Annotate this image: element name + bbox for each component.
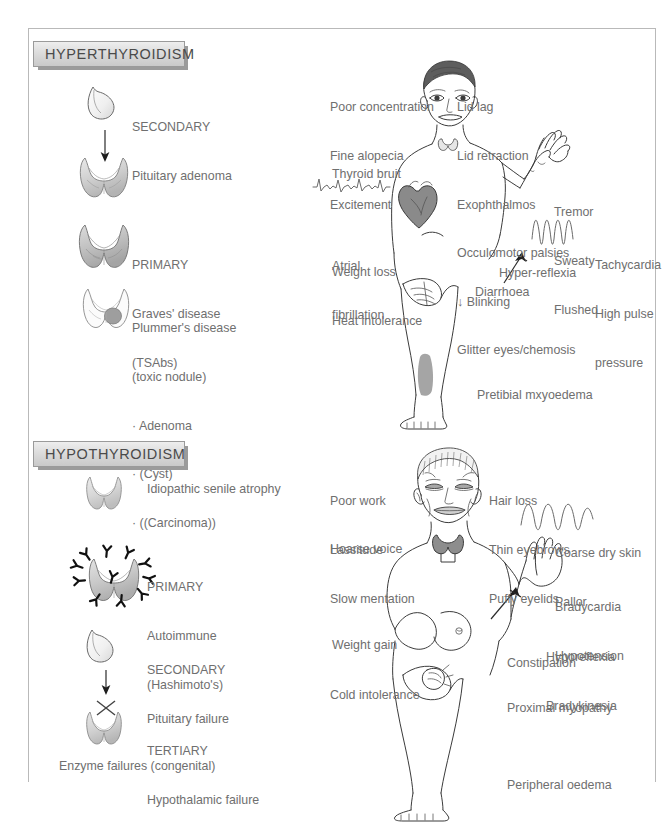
label-peripheral-oedema: Peripheral oedema — [507, 777, 612, 793]
label-line: Flushed — [554, 302, 598, 318]
label-thyroid-bruit: Thyroid bruit — [332, 166, 401, 182]
label-constipation: Constipation — [507, 655, 576, 671]
label-line: Pituitary adenoma — [132, 168, 232, 184]
label-line: · Adenoma — [132, 418, 236, 434]
section-title-hypothyroidism: HYPOTHYROIDISM — [45, 446, 186, 462]
label-pretibial-myxoedema: Pretibial mxyoedema — [477, 387, 593, 403]
label-line: Lid lag — [457, 99, 575, 115]
section-banner-hypothyroidism: HYPOTHYROIDISM — [33, 441, 185, 467]
label-line: Plummer's disease — [132, 320, 236, 336]
label-poor-concentration: Poor concentration Fine alopecia Excitem… — [330, 67, 434, 245]
label-reflex-signs: Hyporeflexia Bradykinesia — [546, 617, 617, 747]
page-frame: HYPERTHYROIDISM — [28, 28, 656, 782]
thyroid-gland-icon — [75, 154, 133, 204]
label-hand-signs: Tremor Sweaty Flushed — [554, 172, 598, 350]
label-line: Bradycardia — [555, 599, 624, 615]
label-line: Hypothalamic failure — [147, 792, 259, 808]
cause-label-plummer: Plummer's disease (toxic nodule) · Adeno… — [132, 288, 236, 563]
label-line: · (Cyst) — [132, 466, 236, 482]
label-diarrhoea: Diarrhoea — [475, 284, 529, 300]
pituitary-gland-icon — [77, 81, 129, 133]
label-line: Poor work — [330, 493, 415, 509]
label-weight-gain: Weight gain — [332, 637, 397, 653]
thyroid-blocked-icon — [81, 709, 127, 753]
label-line: Excitement — [330, 197, 434, 213]
label-cold-intolerance: Cold intolerance — [330, 687, 420, 703]
label-hoarse-voice: Hoarse voice — [330, 541, 402, 557]
label-line: (toxic nodule) — [132, 369, 236, 385]
label-line: SECONDARY — [132, 119, 232, 135]
label-line: PRIMARY — [147, 579, 223, 595]
label-heat-intolerance: Heat intolerance — [332, 313, 422, 329]
label-line: Coarse dry skin — [555, 545, 641, 561]
label-line: pressure — [595, 355, 661, 371]
label-hyper-reflexia: Hyper-reflexia — [499, 265, 576, 281]
thyroid-nodule-icon — [77, 285, 135, 333]
label-line: Poor concentration — [330, 99, 434, 115]
label-line: Tremor — [554, 204, 598, 220]
label-line: Fine alopecia — [330, 148, 434, 164]
label-line: PRIMARY — [132, 257, 220, 273]
label-line: Lid retraction — [457, 148, 575, 164]
label-line: Hair loss — [489, 493, 570, 509]
label-line: Slow mentation — [330, 591, 415, 607]
section-title-hyperthyroidism: HYPERTHYROIDISM — [45, 46, 195, 62]
label-proximal-myopathy: Proximal myopathy — [507, 700, 612, 716]
label-line: Tachycardia — [595, 257, 661, 273]
label-line: High pulse — [595, 306, 661, 322]
label-pulse-signs: Tachycardia High pulse pressure — [595, 225, 661, 403]
atrophic-thyroid-icon — [81, 474, 127, 518]
label-weight-loss: Weight loss — [332, 264, 396, 280]
footnote-enzyme-failures: Enzyme failures (congenital) — [59, 758, 215, 774]
label-line: SECONDARY — [147, 662, 229, 678]
section-banner-hyperthyroidism: HYPERTHYROIDISM — [33, 41, 185, 67]
thyroid-gland-graves-icon — [75, 222, 133, 274]
label-line: · ((Carcinoma)) — [132, 515, 236, 531]
label-atrial-fibrillation: Atrial fibrillation — [332, 226, 384, 356]
cause-label-secondary-hyper: SECONDARY Pituitary adenoma — [132, 87, 232, 217]
pituitary-failure-icon — [77, 625, 127, 673]
cause-label-idiopathic: Idiopathic senile atrophy — [147, 481, 281, 497]
